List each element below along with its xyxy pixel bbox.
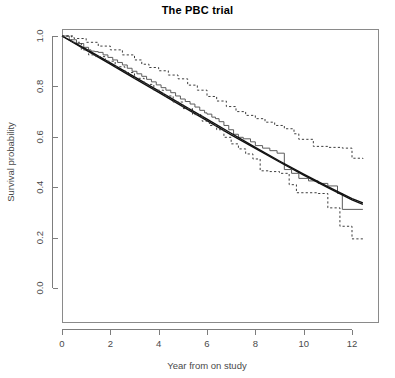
x-tick-label: 8 bbox=[253, 338, 258, 349]
x-tick-label: 10 bbox=[298, 338, 309, 349]
y-tick-label: 0.8 bbox=[34, 80, 45, 93]
x-tick-label: 2 bbox=[108, 338, 113, 349]
y-tick-label: 0.6 bbox=[34, 130, 45, 143]
x-axis-title: Year from on study bbox=[167, 360, 247, 371]
y-tick-label: 1.0 bbox=[34, 29, 45, 42]
axis-labels-group: 0.00.20.40.60.81.0024681012Year from on … bbox=[5, 29, 357, 371]
y-axis-title: Survival probability bbox=[5, 122, 16, 202]
y-tick-label: 0.4 bbox=[34, 181, 45, 194]
chart-page: The PBC trial 0.00.20.40.60.81.002468101… bbox=[0, 0, 395, 378]
data-series-group bbox=[62, 36, 363, 239]
x-tick-label: 4 bbox=[156, 338, 161, 349]
y-tick-label: 0.0 bbox=[34, 281, 45, 294]
fitted-model-line-1 bbox=[62, 36, 363, 203]
plot-frame bbox=[53, 30, 379, 335]
y-tick-label: 0.2 bbox=[34, 231, 45, 244]
survival-plot: 0.00.20.40.60.81.0024681012Year from on … bbox=[0, 0, 395, 378]
lower-confidence-band bbox=[62, 36, 363, 239]
x-tick-label: 12 bbox=[347, 338, 358, 349]
x-tick-label: 0 bbox=[59, 338, 64, 349]
x-tick-label: 6 bbox=[204, 338, 209, 349]
